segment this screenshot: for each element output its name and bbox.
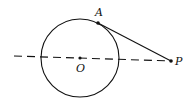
label-a: A (94, 6, 103, 19)
dashed-line-through-o-to-p (14, 56, 171, 61)
point-p-dot (169, 59, 173, 63)
label-p: P (174, 55, 183, 68)
point-a-dot (96, 21, 100, 25)
label-o: O (76, 62, 85, 75)
geometry-figure: A O P (0, 0, 189, 104)
point-o-dot (78, 56, 81, 59)
segment-pa (98, 23, 171, 61)
